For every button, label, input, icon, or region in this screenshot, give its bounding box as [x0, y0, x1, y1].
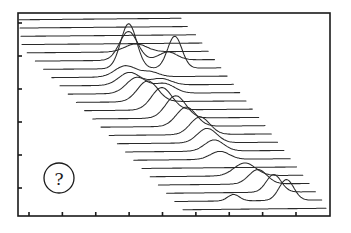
- trace-20: [150, 163, 303, 177]
- trace-24: [183, 208, 326, 210]
- trace-19: [142, 167, 297, 169]
- trace-23: [175, 180, 322, 202]
- traces: [19, 18, 326, 210]
- trace-17: [126, 140, 284, 152]
- trace-7: [44, 24, 221, 70]
- badge-label: ?: [54, 169, 63, 189]
- trace-3: [21, 35, 196, 37]
- trace-1: [19, 18, 181, 20]
- trace-2: [20, 27, 187, 29]
- trace-18: [134, 151, 290, 160]
- trace-9: [60, 72, 233, 85]
- annotation-badge: ?: [44, 163, 74, 193]
- trace-4: [22, 43, 202, 45]
- trace-16: [117, 128, 277, 143]
- waterfall-chart: ?: [0, 0, 351, 233]
- trace-21: [158, 170, 309, 185]
